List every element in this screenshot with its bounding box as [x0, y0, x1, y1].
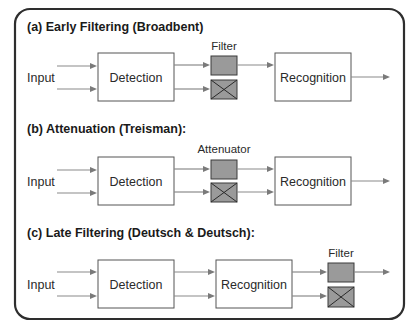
attenuator-reduced-box [211, 183, 237, 202]
detection-label: Detection [110, 278, 163, 292]
attention-models-diagram: (a) Early Filtering (Broadbent) Input De… [0, 0, 416, 334]
recognition-label: Recognition [280, 71, 346, 85]
panel-title: (c) Late Filtering (Deutsch & Deutsch): [27, 226, 255, 240]
input-label: Input [27, 71, 55, 85]
filter-label: Filter [211, 40, 237, 52]
attenuator-label: Attenuator [197, 143, 250, 155]
filter-blocked-box [328, 287, 354, 307]
recognition-label: Recognition [221, 278, 287, 292]
input-label: Input [27, 278, 55, 292]
detection-label: Detection [110, 175, 163, 189]
filter-blocked-box [211, 80, 237, 99]
detection-label: Detection [110, 71, 163, 85]
panel-title: (b) Attenuation (Treisman): [27, 122, 186, 136]
filter-label: Filter [328, 247, 354, 259]
panel-title: (a) Early Filtering (Broadbent) [27, 20, 203, 34]
filter-pass-box [328, 263, 354, 282]
filter-pass-box [211, 56, 237, 75]
input-label: Input [27, 175, 55, 189]
recognition-label: Recognition [280, 175, 346, 189]
attenuator-pass-box [211, 160, 237, 179]
